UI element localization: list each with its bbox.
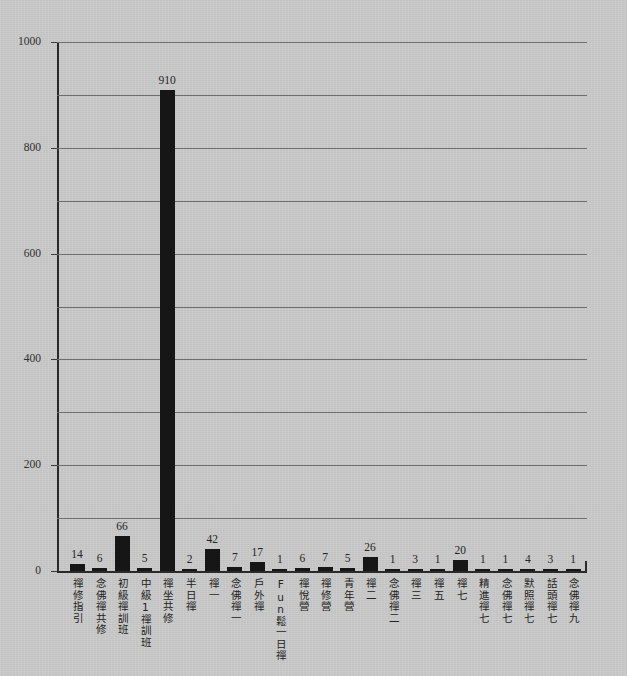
bar[interactable] xyxy=(340,568,355,571)
bar-value-label: 1 xyxy=(502,554,508,566)
x-axis-tick-label: 念佛禪二 xyxy=(387,578,399,624)
x-axis-tick-label: 精進禪七 xyxy=(477,578,489,624)
x-axis-labels: 禪修指引念佛禪共修初級禪訓班中級1禪訓班禪坐共修半日禪禪一念佛禪一戶外禪Fun鬆… xyxy=(57,578,587,674)
x-axis-tick-label: 禪七 xyxy=(455,578,467,601)
bar-value-label: 910 xyxy=(159,75,176,87)
y-axis-tick xyxy=(51,254,57,255)
bar[interactable] xyxy=(227,567,242,571)
bar-value-label: 5 xyxy=(142,553,148,565)
gridline xyxy=(57,359,587,360)
x-axis-tick-label: 禪二 xyxy=(364,578,376,601)
bar-value-label: 66 xyxy=(116,521,128,533)
bar-value-label: 17 xyxy=(252,547,264,559)
x-axis-tick-label: 默照禪七 xyxy=(522,578,534,624)
x-axis-tick-label: 禪悅營 xyxy=(297,578,309,613)
x-axis-tick-label: 青年營 xyxy=(342,578,354,613)
bar[interactable] xyxy=(160,90,175,571)
x-axis-tick-label: 戶外禪 xyxy=(252,578,264,613)
bar-value-label: 5 xyxy=(345,553,351,565)
y-axis-tick-label: 600 xyxy=(24,248,41,260)
x-axis-tick-label: 禪一 xyxy=(207,578,219,601)
bar[interactable] xyxy=(182,569,197,571)
x-axis-line xyxy=(57,571,587,573)
bar[interactable] xyxy=(566,569,581,571)
bar-value-label: 1 xyxy=(390,554,396,566)
bar-chart: 02004006008001000 1466659102427171675261… xyxy=(0,0,627,676)
bar[interactable] xyxy=(520,569,535,571)
bar-value-label: 1 xyxy=(570,554,576,566)
bar[interactable] xyxy=(318,567,333,571)
x-axis-tick-label: 念佛禪七 xyxy=(500,578,512,624)
bar-value-label: 1 xyxy=(435,554,441,566)
bar-value-label: 6 xyxy=(97,553,103,565)
x-axis-tick-label: 禪修營 xyxy=(319,578,331,613)
bar[interactable] xyxy=(453,560,468,571)
y-axis-tick-label: 400 xyxy=(24,354,41,366)
y-axis-tick xyxy=(51,42,57,43)
bar[interactable] xyxy=(408,569,423,571)
bar-value-label: 7 xyxy=(232,552,238,564)
gridline xyxy=(57,95,587,96)
y-axis-tick-label: 1000 xyxy=(18,36,41,48)
bar[interactable] xyxy=(430,569,445,571)
y-axis-tick xyxy=(51,465,57,466)
x-axis-tick-label: 話頭禪七 xyxy=(545,578,557,624)
x-axis-tick-label: 念佛禪一 xyxy=(229,578,241,624)
x-axis-tick-label: Fun鬆一日禪 xyxy=(274,578,286,662)
y-axis-line xyxy=(57,42,59,573)
bar-value-label: 26 xyxy=(364,542,376,554)
bar-value-label: 1 xyxy=(480,554,486,566)
bar[interactable] xyxy=(543,569,558,571)
x-axis-right-cap xyxy=(585,561,587,573)
x-axis-tick-label: 禪坐共修 xyxy=(161,578,173,624)
bar-value-label: 4 xyxy=(525,554,531,566)
bar-value-label: 3 xyxy=(548,554,554,566)
x-axis-tick-label: 半日禪 xyxy=(184,578,196,613)
bar[interactable] xyxy=(70,564,85,571)
x-axis-tick-label: 念佛禪九 xyxy=(567,578,579,624)
bar[interactable] xyxy=(498,569,513,571)
gridline xyxy=(57,412,587,413)
bar[interactable] xyxy=(92,568,107,571)
bar-value-label: 42 xyxy=(207,534,219,546)
bar[interactable] xyxy=(250,562,265,571)
x-axis-tick-label: 念佛禪共修 xyxy=(94,578,106,636)
bar-value-label: 14 xyxy=(71,549,83,561)
y-axis-tick-label: 800 xyxy=(24,142,41,154)
y-axis-tick-label: 200 xyxy=(24,459,41,471)
bar-value-label: 20 xyxy=(455,545,467,557)
gridline xyxy=(57,254,587,255)
y-axis-tick xyxy=(51,148,57,149)
bar[interactable] xyxy=(272,569,287,571)
bar[interactable] xyxy=(475,569,490,571)
x-axis-tick-label: 初級禪訓班 xyxy=(116,578,128,636)
bar-value-label: 7 xyxy=(322,552,328,564)
bar-value-label: 2 xyxy=(187,554,193,566)
gridline xyxy=(57,42,587,43)
gridline xyxy=(57,201,587,202)
x-axis-tick-label: 禪五 xyxy=(432,578,444,601)
plot-area: 1466659102427171675261312011431 xyxy=(57,42,587,573)
gridline xyxy=(57,518,587,519)
bar[interactable] xyxy=(295,568,310,571)
bar-value-label: 1 xyxy=(277,554,283,566)
y-axis-tick-label: 0 xyxy=(35,565,41,577)
x-axis-tick-label: 中級1禪訓班 xyxy=(139,578,151,648)
bar[interactable] xyxy=(137,568,152,571)
bar-value-label: 3 xyxy=(412,554,418,566)
y-axis-tick xyxy=(51,359,57,360)
gridline xyxy=(57,307,587,308)
gridline xyxy=(57,148,587,149)
x-axis-tick-label: 禪三 xyxy=(409,578,421,601)
bar-value-label: 6 xyxy=(300,553,306,565)
gridline xyxy=(57,465,587,466)
bar[interactable] xyxy=(115,536,130,571)
bar[interactable] xyxy=(385,569,400,571)
y-axis-labels: 02004006008001000 xyxy=(0,42,50,573)
bar[interactable] xyxy=(363,557,378,571)
bar[interactable] xyxy=(205,549,220,571)
x-axis-tick-label: 禪修指引 xyxy=(71,578,83,624)
y-axis-tick xyxy=(51,571,57,572)
